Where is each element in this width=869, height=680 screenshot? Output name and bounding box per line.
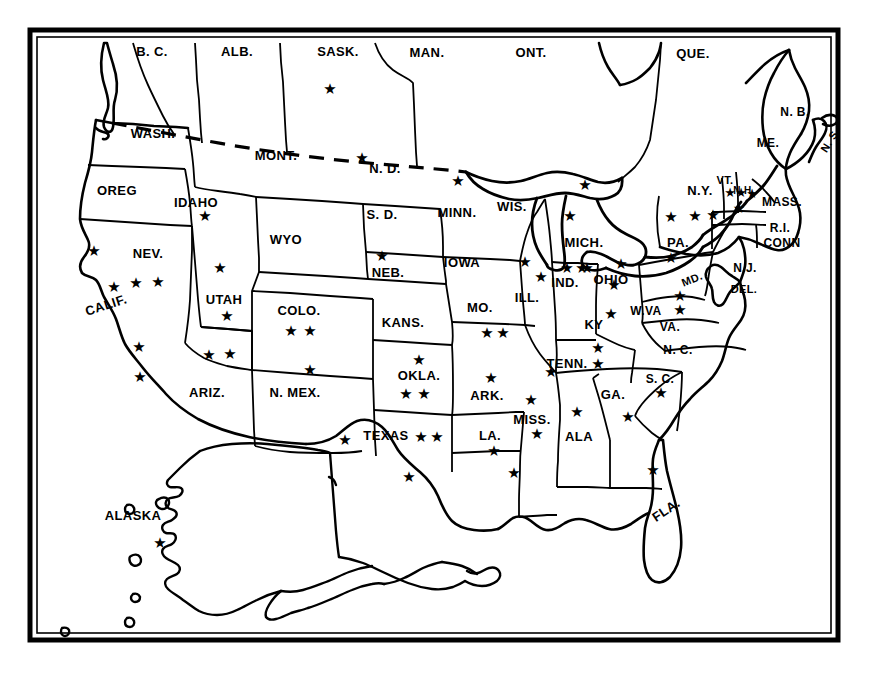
label-nd: N. D.	[369, 161, 401, 176]
label-neb: NEB.	[372, 265, 405, 280]
star-la-1: ★	[487, 444, 500, 459]
star-neb: ★	[375, 249, 388, 264]
label-bc: B. C.	[136, 44, 168, 59]
star-mo-1: ★	[480, 326, 493, 341]
star-sc: ★	[654, 386, 667, 401]
alabama-florida-border	[557, 487, 610, 488]
star-va: ★	[673, 303, 686, 318]
star-tenn-1: ★	[591, 341, 604, 356]
label-okla: OKLA.	[398, 368, 440, 383]
mass-conn-ri-border	[712, 224, 766, 225]
label-mich: MICH.	[565, 235, 604, 250]
label-la: LA.	[479, 428, 501, 443]
star-okla-3: ★	[417, 387, 430, 402]
label-texas: TEXAS	[363, 428, 408, 443]
star-alaska: ★	[153, 536, 166, 551]
star-ny-1: ★	[664, 210, 677, 225]
label-man: MAN.	[410, 45, 445, 60]
star-utah-1: ★	[213, 261, 226, 276]
star-ill-2: ★	[534, 270, 547, 285]
label-utah: UTAH	[206, 292, 243, 307]
label-wva: W.VA	[630, 304, 661, 318]
star-pa-1: ★	[664, 251, 677, 266]
star-okla-2: ★	[399, 387, 412, 402]
star-ga: ★	[621, 410, 634, 425]
label-sd: S. D.	[367, 207, 398, 222]
star-ohio-1: ★	[614, 257, 627, 272]
star-texas-1: ★	[338, 433, 351, 448]
star-nd: ★	[355, 151, 368, 166]
label-ky: KY	[585, 317, 604, 332]
label-ark: ARK.	[470, 388, 503, 403]
star-calif-4: ★	[133, 370, 146, 385]
star-ala: ★	[570, 405, 583, 420]
label-mont: MONT.	[255, 148, 297, 163]
georgia-florida-border	[610, 488, 662, 489]
star-texas-4: ★	[402, 470, 415, 485]
conn-ri-border	[756, 225, 757, 248]
star-me: ★	[746, 187, 758, 200]
star-tenn-2: ★	[591, 357, 604, 372]
label-ariz: ARIZ.	[189, 385, 225, 400]
star-colo-1: ★	[284, 324, 297, 339]
map-background	[0, 0, 869, 680]
label-colo: COLO.	[277, 303, 320, 318]
star-upper-mich: ★	[578, 178, 591, 193]
label-nmex: N. MEX.	[269, 385, 320, 400]
label-va: VA.	[660, 320, 680, 334]
label-oreg: OREG	[97, 183, 137, 198]
label-wyo: WYO	[270, 232, 302, 247]
kansas-missouri-border	[452, 345, 453, 415]
star-colo-2: ★	[303, 324, 316, 339]
label-nev: NEV.	[133, 246, 164, 261]
label-conn: CONN	[764, 236, 801, 250]
label-iowa: IOWA	[444, 255, 480, 270]
star-sask: ★	[323, 82, 336, 97]
star-ariz-1: ★	[202, 348, 215, 363]
star-utah-2: ★	[220, 309, 233, 324]
label-ga: GA.	[601, 387, 625, 402]
star-ariz-2: ★	[223, 347, 236, 362]
label-ill: ILL.	[515, 290, 540, 305]
star-texas-2: ★	[414, 430, 427, 445]
star-vt: ★	[724, 186, 736, 199]
label-wis: WIS.	[497, 199, 527, 214]
north-america-star-map: B. C.ALB.SASK.MAN.ONT.QUE.N. B.N. S.ME.W…	[0, 0, 869, 680]
star-ark: ★	[484, 371, 497, 386]
star-nmex: ★	[303, 363, 316, 378]
star-wis-1: ★	[580, 261, 593, 276]
star-calif-2: ★	[107, 280, 120, 295]
star-tenn-3: ★	[544, 365, 557, 380]
star-ny-2: ★	[688, 209, 701, 224]
label-ind: IND.	[551, 275, 579, 290]
label-mass: MASS.	[762, 195, 802, 209]
star-la-2: ★	[507, 466, 520, 481]
label-ont: ONT.	[515, 45, 546, 60]
star-okla-1: ★	[412, 353, 425, 368]
label-ala: ALA	[565, 429, 593, 444]
star-miss-2: ★	[530, 427, 543, 442]
label-del: DEL.	[731, 283, 758, 295]
label-nb: N. B.	[780, 105, 809, 119]
star-nev-2: ★	[151, 275, 164, 290]
star-ny-3: ★	[706, 208, 719, 223]
star-fla: ★	[646, 463, 659, 478]
star-mass: ★	[733, 201, 746, 215]
label-alb: ALB.	[221, 44, 253, 59]
label-idaho: IDAHO	[174, 195, 218, 210]
label-nj: N.J.	[733, 261, 757, 275]
label-ny: N.Y.	[687, 183, 712, 198]
label-me: ME.	[757, 136, 780, 150]
star-ohio-2: ★	[607, 278, 620, 293]
label-alaska: ALASKA	[105, 508, 162, 523]
star-texas-3: ★	[430, 430, 443, 445]
star-mich-2: ★	[563, 209, 576, 224]
label-minn: MINN.	[438, 205, 477, 220]
star-idaho: ★	[198, 209, 211, 224]
map-line-art	[0, 0, 869, 680]
label-mo: MO.	[467, 300, 493, 315]
star-ky-1: ★	[604, 307, 617, 322]
star-miss-1: ★	[524, 393, 537, 408]
star-calif-3: ★	[132, 340, 145, 355]
star-calif-1: ★	[87, 244, 100, 259]
